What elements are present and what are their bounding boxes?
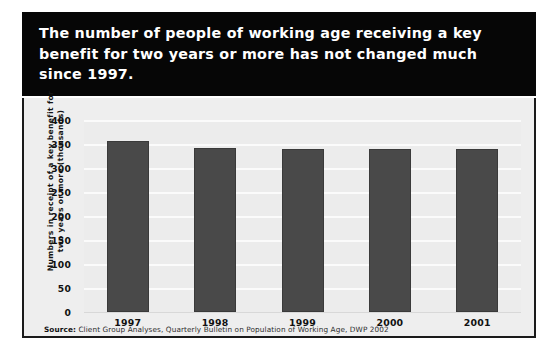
x-axis-tick-label: 2001 — [464, 317, 491, 328]
bar — [107, 141, 149, 312]
source-text: Client Group Analyses, Quarterly Bulleti… — [76, 325, 389, 334]
y-axis-tick-label: 300 — [31, 163, 71, 174]
chart-panel: Numbers in receipt of a key benefit for … — [22, 98, 536, 338]
gridline — [84, 144, 521, 146]
bar — [194, 148, 236, 312]
y-axis-tick-label: 0 — [31, 307, 71, 318]
bar — [369, 149, 411, 312]
y-axis-tick-label: 250 — [31, 187, 71, 198]
gridline — [84, 312, 521, 313]
bar — [456, 149, 498, 312]
y-axis-tick-label: 150 — [31, 235, 71, 246]
title-banner: The number of people of working age rece… — [22, 12, 536, 96]
plot-area — [84, 120, 521, 312]
source-label: Source: — [44, 325, 76, 334]
y-axis-tick-label: 350 — [31, 139, 71, 150]
source-note: Source: Client Group Analyses, Quarterly… — [44, 325, 389, 334]
y-axis-tick-label: 50 — [31, 283, 71, 294]
y-axis-tick-label: 100 — [31, 259, 71, 270]
y-axis-tick-label: 400 — [31, 115, 71, 126]
figure-container: The number of people of working age rece… — [0, 0, 557, 346]
y-axis-tick-label: 200 — [31, 211, 71, 222]
gridline — [84, 120, 521, 122]
bar — [282, 149, 324, 312]
page-title: The number of people of working age rece… — [39, 23, 519, 85]
y-axis-title-line-2: two years or more (thousands) — [56, 110, 67, 253]
